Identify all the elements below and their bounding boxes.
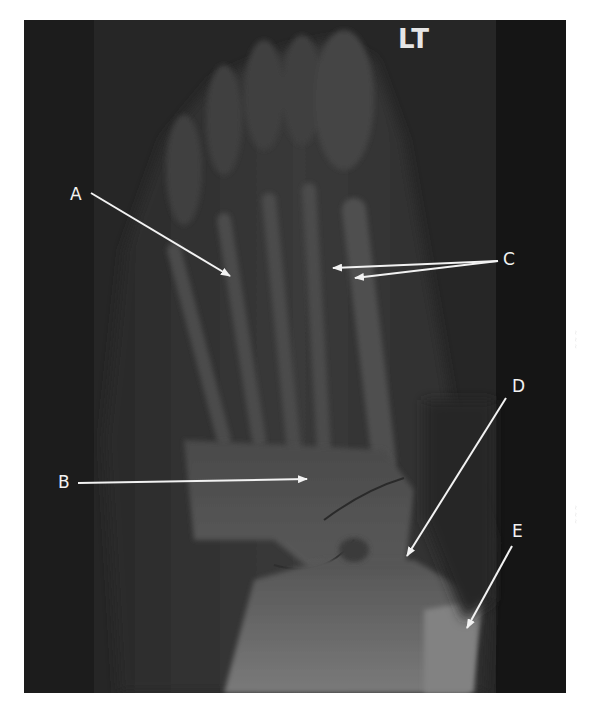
label-d: D [512,378,525,395]
arrow-d [407,398,506,556]
label-e: E [512,523,523,540]
label-b: B [58,474,70,491]
arrow-b [78,479,307,483]
margin-mark-2: ~ ~ ~ [573,505,580,524]
label-c: C [503,251,515,268]
label-a: A [70,186,82,203]
margin-mark-1: ~ ~ ~ [573,330,580,349]
arrow-e [467,546,512,628]
page: LT A B C D E ~ ~ ~ ~ ~ ~ [0,0,604,721]
arrow-a [91,193,230,276]
annotation-layer [0,0,604,721]
